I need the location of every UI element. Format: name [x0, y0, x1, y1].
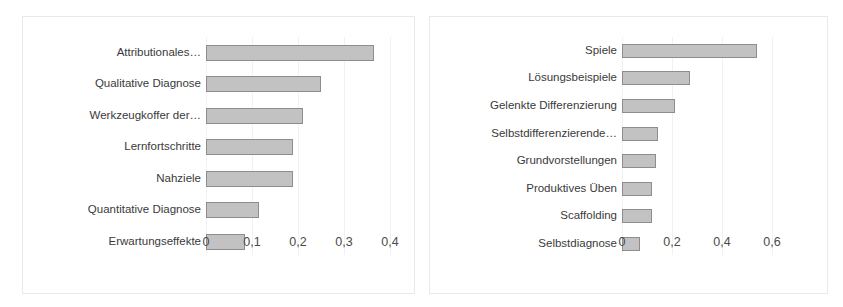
- bar: [206, 76, 321, 92]
- bar-row: Selbstdifferenzierende…: [430, 120, 827, 148]
- category-label: Nahziele: [23, 173, 201, 185]
- bar-row: Scaffolding: [430, 203, 827, 231]
- bar-row: Lernfortschritte: [23, 132, 414, 164]
- bar-row: Qualitative Diagnose: [23, 69, 414, 101]
- plot-area-right: SpieleLösungsbeispieleGelenkte Differenz…: [430, 17, 827, 293]
- category-label: Lösungsbeispiele: [430, 73, 617, 85]
- bar-row: Nahziele: [23, 163, 414, 195]
- bar: [206, 171, 293, 187]
- x-axis-tick-label: 0,4: [713, 236, 730, 249]
- category-label: Spiele: [430, 45, 617, 57]
- bar: [206, 202, 259, 218]
- bar-row: Lösungsbeispiele: [430, 65, 827, 93]
- bar-row: Attributionales…: [23, 37, 414, 69]
- two-bar-charts-figure: Attributionales…Qualitative DiagnoseWerk…: [0, 0, 843, 307]
- category-label: Quantitative Diagnose: [23, 205, 201, 217]
- bar: [622, 71, 690, 85]
- chart-panel-right: SpieleLösungsbeispieleGelenkte Differenz…: [429, 16, 828, 294]
- x-axis-tick-label: 0: [619, 236, 626, 249]
- category-label: Scaffolding: [430, 211, 617, 223]
- bar: [622, 209, 652, 223]
- category-label: Lernfortschritte: [23, 142, 201, 154]
- bar: [622, 127, 658, 141]
- bar: [206, 139, 293, 155]
- bar-row: Grundvorstellungen: [430, 147, 827, 175]
- bar: [622, 154, 656, 168]
- chart-panel-left: Attributionales…Qualitative DiagnoseWerk…: [22, 16, 415, 294]
- category-label: Gelenkte Differenzierung: [430, 100, 617, 112]
- category-label: Qualitative Diagnose: [23, 79, 201, 91]
- x-axis-ticks-left: 00,10,20,30,4: [23, 236, 414, 252]
- bar: [206, 108, 303, 124]
- bar-row: Gelenkte Differenzierung: [430, 92, 827, 120]
- category-label: Werkzeugkoffer der…: [23, 110, 201, 122]
- x-axis-tick-label: 0,3: [335, 236, 352, 249]
- x-axis-tick-label: 0,4: [381, 236, 398, 249]
- category-label: Attributionales…: [23, 47, 201, 59]
- bar-rows-left: Attributionales…Qualitative DiagnoseWerk…: [23, 37, 414, 258]
- bar: [622, 44, 757, 58]
- x-axis-tick-label: 0,2: [663, 236, 680, 249]
- bar-row: Quantitative Diagnose: [23, 195, 414, 227]
- x-axis-tick-label: 0: [203, 236, 210, 249]
- bar: [622, 182, 652, 196]
- category-label: Selbstdifferenzierende…: [430, 128, 617, 140]
- bar-row: Spiele: [430, 37, 827, 65]
- bar-rows-right: SpieleLösungsbeispieleGelenkte Differenz…: [430, 37, 827, 258]
- x-axis-ticks-right: 00,20,40,6: [430, 236, 827, 252]
- bar-row: Produktives Üben: [430, 175, 827, 203]
- category-label: Grundvorstellungen: [430, 155, 617, 167]
- bar: [622, 99, 675, 113]
- x-axis-tick-label: 0,1: [243, 236, 260, 249]
- bar: [206, 45, 374, 61]
- category-label: Produktives Üben: [430, 183, 617, 195]
- x-axis-tick-label: 0,6: [763, 236, 780, 249]
- plot-area-left: Attributionales…Qualitative DiagnoseWerk…: [23, 17, 414, 293]
- x-axis-tick-label: 0,2: [289, 236, 306, 249]
- bar-row: Werkzeugkoffer der…: [23, 100, 414, 132]
